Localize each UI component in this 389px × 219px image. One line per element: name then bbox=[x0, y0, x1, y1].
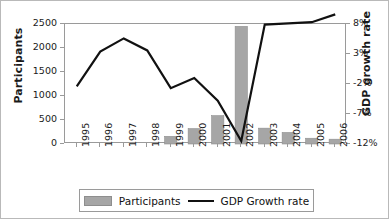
y-axis-left-tick-label: 500 bbox=[1, 114, 57, 124]
y-axis-right-tick-label: 3% bbox=[353, 48, 368, 58]
y-axis-right-tickmark bbox=[346, 23, 350, 24]
y-axis-right-tick-label: -2% bbox=[353, 78, 372, 88]
y-axis-left-tick-label: 1000 bbox=[1, 90, 57, 100]
x-axis-tick-label-1996: 1996 bbox=[103, 123, 114, 147]
chart-figure: Participants GDP growth rate 05001000150… bbox=[0, 0, 389, 219]
y-axis-left-tick-label: 0 bbox=[1, 138, 57, 148]
x-axis-tickmark bbox=[76, 143, 77, 147]
y-axis-right-tick-label: -7% bbox=[353, 108, 372, 118]
y-axis-left-tickmark bbox=[60, 71, 64, 72]
chart-legend: Participants GDP Growth rate bbox=[79, 189, 314, 212]
x-axis-tickmark bbox=[287, 143, 288, 147]
x-axis-tick-label-2002: 2002 bbox=[244, 123, 255, 147]
y-axis-right-tick-label: 8% bbox=[353, 18, 368, 28]
y-axis-left-tickmark bbox=[60, 143, 64, 144]
x-axis-tick-label-1998: 1998 bbox=[150, 123, 161, 147]
y-axis-left-tick-label: 2000 bbox=[1, 42, 57, 52]
y-axis-right-tickmark bbox=[346, 83, 350, 84]
x-axis-tick-label-1997: 1997 bbox=[127, 123, 138, 147]
y-axis-left-tick-label: 2500 bbox=[1, 18, 57, 28]
x-axis-tickmark bbox=[193, 143, 194, 147]
x-axis-tick-label-2003: 2003 bbox=[268, 123, 279, 147]
x-axis-tick-label-2004: 2004 bbox=[291, 123, 302, 147]
y-axis-right-tick-label: -12% bbox=[353, 138, 378, 148]
x-axis-tick-label-1999: 1999 bbox=[174, 123, 185, 147]
y-axis-left-tickmark bbox=[60, 23, 64, 24]
y-axis-left-tickmark bbox=[60, 47, 64, 48]
y-axis-left-tickmark bbox=[60, 119, 64, 120]
legend-swatch-gdp-growth-rate bbox=[188, 200, 214, 202]
x-axis-tick-label-2000: 2000 bbox=[197, 123, 208, 147]
x-axis-tickmark bbox=[123, 143, 124, 147]
x-axis-tickmark bbox=[99, 143, 100, 147]
x-axis-tickmark bbox=[334, 143, 335, 147]
x-axis-tick-label-2005: 2005 bbox=[315, 123, 326, 147]
x-axis-tickmark bbox=[311, 143, 312, 147]
y-axis-left-tickmark bbox=[60, 95, 64, 96]
x-axis-tickmark bbox=[170, 143, 171, 147]
x-axis-tickmark bbox=[240, 143, 241, 147]
x-axis-tickmark bbox=[217, 143, 218, 147]
y-axis-left-tick-label: 1500 bbox=[1, 66, 57, 76]
legend-swatch-participants bbox=[84, 196, 112, 206]
x-axis-tick-label-2001: 2001 bbox=[221, 123, 232, 147]
x-axis-tick-label-2006: 2006 bbox=[338, 123, 349, 147]
y-axis-right-tickmark bbox=[346, 113, 350, 114]
legend-label-gdp-growth-rate: GDP Growth rate bbox=[221, 195, 310, 207]
legend-label-participants: Participants bbox=[119, 195, 181, 207]
x-axis-tick-label-1995: 1995 bbox=[80, 123, 91, 147]
x-axis-tickmark bbox=[146, 143, 147, 147]
x-axis-tickmark bbox=[264, 143, 265, 147]
y-axis-right-tickmark bbox=[346, 53, 350, 54]
